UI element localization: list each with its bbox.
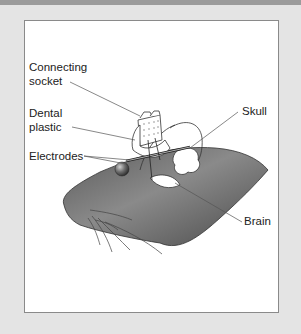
brain-shape (173, 148, 200, 174)
electrode-ball (115, 162, 129, 176)
label-dental-plastic-line1: Dental (29, 107, 62, 120)
label-dental-plastic-line2: plastic (29, 121, 62, 134)
label-connecting-socket-line1: Connecting (29, 61, 87, 74)
label-electrodes: Electrodes (29, 150, 83, 163)
label-connecting-socket-line2: socket (29, 75, 62, 88)
head-shape (63, 147, 268, 245)
label-brain: Brain (244, 215, 271, 228)
rat-head-electrode-illustration (0, 0, 301, 334)
label-skull: Skull (242, 105, 267, 118)
connecting-socket (138, 115, 162, 146)
